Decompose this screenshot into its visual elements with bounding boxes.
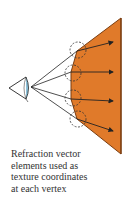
view-rays xyxy=(31,51,77,119)
caption-line: at each vertex xyxy=(11,183,139,195)
refractive-surface xyxy=(71,18,121,154)
eye-icon xyxy=(9,77,29,102)
caption-line: Refraction vector xyxy=(11,148,139,160)
caption-line: elements used as xyxy=(11,160,139,172)
figure-caption: Refraction vector elements used as textu… xyxy=(11,148,139,194)
caption-line: texture coordinates xyxy=(11,171,139,183)
